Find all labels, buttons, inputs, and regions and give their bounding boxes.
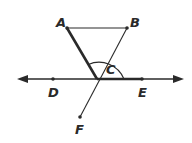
geometry-diagram: A B C D E F xyxy=(0,0,192,143)
label-d: D xyxy=(48,85,59,100)
point-f xyxy=(78,115,82,119)
point-e xyxy=(140,77,144,81)
label-f: F xyxy=(75,122,84,137)
arrow-right-icon xyxy=(173,75,184,83)
segment-ac xyxy=(67,28,97,79)
point-b xyxy=(125,26,129,30)
label-a: A xyxy=(55,15,66,30)
point-d xyxy=(51,77,55,81)
label-c: C xyxy=(106,62,116,77)
label-b: B xyxy=(130,15,140,30)
label-e: E xyxy=(138,85,147,100)
arrow-left-icon xyxy=(17,75,28,83)
